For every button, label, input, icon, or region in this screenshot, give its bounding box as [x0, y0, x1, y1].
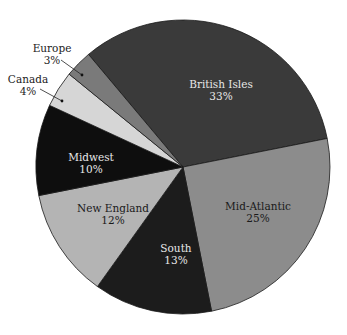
- leader-dot: [81, 74, 84, 77]
- pie-chart: British Isles33%Mid-Atlantic25%South13%N…: [0, 0, 347, 335]
- leader-dot: [61, 100, 64, 103]
- slice-label: Europe3%: [33, 42, 72, 66]
- slice-label: Canada4%: [8, 73, 48, 97]
- slice-label: South13%: [160, 242, 191, 266]
